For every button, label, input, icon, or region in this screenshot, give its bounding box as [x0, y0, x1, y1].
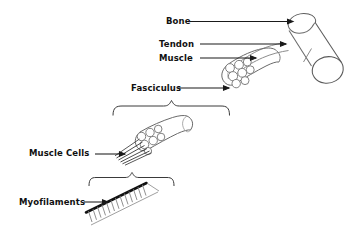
muscle-cells-leader	[95, 152, 125, 156]
myofilaments-brace	[89, 173, 174, 187]
actin-filaments	[89, 185, 147, 222]
label-bone: Bone	[166, 16, 191, 26]
bone-shape	[288, 13, 343, 83]
muscle-cells-leader-arrow	[120, 152, 126, 156]
leader-lines-top	[190, 19, 293, 60]
fiber-edge-lower	[91, 192, 158, 225]
myofilaments-shape	[86, 183, 159, 225]
diagram-canvas: Bone Tendon Muscle Fasciculus Muscle Cel…	[0, 0, 359, 241]
label-myofilaments: Myofilaments	[19, 197, 85, 207]
bone-leader-arrow	[288, 19, 294, 23]
tendon-leader-arrow	[281, 42, 287, 46]
fasciculus-leader	[178, 86, 229, 90]
muscle-leader-arrow	[251, 56, 257, 60]
myosin-filament	[86, 183, 147, 213]
myofilaments-leader	[84, 200, 108, 204]
fasciculus-brace	[113, 101, 230, 116]
fasciculus-leader-arrow	[224, 86, 230, 90]
label-muscle: Muscle	[159, 53, 193, 63]
label-tendon: Tendon	[159, 39, 194, 49]
label-muscle-cells: Muscle Cells	[29, 148, 89, 158]
label-fasciculus: Fasciculus	[131, 83, 181, 93]
fiber-edge-upper	[148, 184, 160, 192]
